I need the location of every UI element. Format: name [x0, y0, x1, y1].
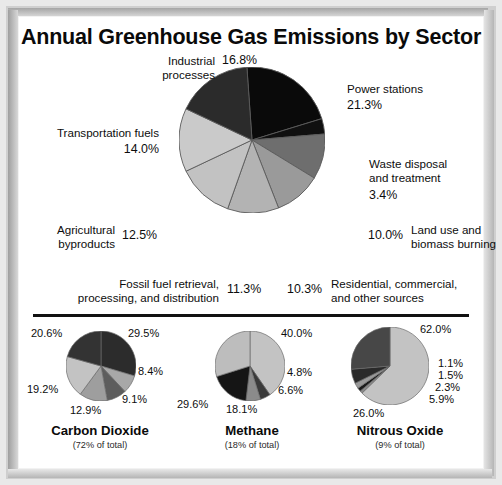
nitrous-oxide-pie-holder: 62.0% 1.1% 1.5% 2.3% 5.9% 26.0% — [325, 319, 475, 423]
co2-label-19-2: 19.2% — [27, 383, 58, 395]
nitrous-oxide-title: Nitrous Oxide — [325, 423, 475, 438]
label-agricultural: Agricultural byproducts — [19, 223, 115, 250]
label-waste-disposal-line1: Waste disposal — [369, 157, 447, 170]
co2-label-29-5: 29.5% — [128, 327, 159, 339]
carbon-dioxide-pie-holder: 29.5% 8.4% 9.1% 12.9% 19.2% 20.6% — [25, 319, 175, 423]
label-power-stations-pct: 21.3% — [347, 99, 382, 113]
page-title: Annual Greenhouse Gas Emissions by Secto… — [19, 25, 483, 50]
carbon-dioxide-title: Carbon Dioxide — [25, 423, 175, 438]
methane-pie-graphic — [215, 331, 285, 405]
n2o-label-2-3: 2.3% — [435, 381, 460, 393]
label-waste-disposal: Waste disposal and treatment — [369, 157, 447, 184]
chart-content: Annual Greenhouse Gas Emissions by Secto… — [19, 17, 483, 468]
co2-label-8-4: 8.4% — [138, 365, 163, 377]
ch4-label-6-6: 6.6% — [278, 384, 303, 396]
pie-slice — [351, 327, 390, 369]
gas-breakdown-charts: 29.5% 8.4% 9.1% 12.9% 19.2% 20.6% Carbon… — [19, 319, 483, 468]
methane-pie-holder: 40.0% 4.8% 6.6% 18.1% 29.6% — [177, 319, 327, 423]
ch4-label-18-1: 18.1% — [226, 403, 257, 415]
label-fossil-fuel-pct: 11.3% — [227, 283, 261, 297]
n2o-label-26-0: 26.0% — [353, 407, 384, 419]
label-residential-line1: Residential, commercial, — [331, 277, 457, 290]
label-residential: Residential, commercial, and other sourc… — [331, 277, 457, 304]
co2-label-9-1: 9.1% — [122, 393, 147, 405]
section-divider — [33, 314, 469, 317]
main-pie-chart: Industrial processes 16.8% Power station… — [19, 53, 483, 313]
screenshot-root: Annual Greenhouse Gas Emissions by Secto… — [0, 0, 502, 485]
label-land-use-pct: 10.0% — [368, 229, 403, 243]
methane-subtitle: (18% of total) — [177, 440, 327, 450]
n2o-label-1-1: 1.1% — [438, 357, 463, 369]
label-industrial-processes-pct: 16.8% — [222, 54, 257, 68]
chart-carbon-dioxide: 29.5% 8.4% 9.1% 12.9% 19.2% 20.6% Carbon… — [25, 319, 175, 468]
chart-nitrous-oxide: 62.0% 1.1% 1.5% 2.3% 5.9% 26.0% Nitrous … — [325, 319, 475, 468]
label-fossil-fuel-line1: Fossil fuel retrieval, — [119, 277, 219, 290]
label-land-use-line1: Land use and — [411, 223, 481, 236]
label-agricultural-pct: 12.5% — [122, 229, 157, 243]
label-agricultural-line2: byproducts — [58, 237, 115, 250]
label-transportation-fuels-pct: 14.0% — [19, 143, 159, 157]
co2-label-12-9: 12.9% — [70, 404, 101, 416]
label-residential-line2: and other sources — [331, 291, 424, 304]
n2o-label-5-9: 5.9% — [429, 393, 454, 405]
label-transportation-fuels: Transportation fuels — [19, 126, 159, 140]
label-waste-disposal-pct: 3.4% — [369, 189, 397, 203]
methane-title: Methane — [177, 423, 327, 438]
label-residential-pct: 10.3% — [287, 283, 322, 297]
label-land-use: Land use and biomass burning — [411, 223, 496, 250]
label-land-use-line2: biomass burning — [411, 237, 496, 250]
nitrous-oxide-pie-graphic — [351, 327, 429, 409]
frame-bevel-left — [8, 10, 18, 476]
n2o-label-62-0: 62.0% — [420, 323, 451, 335]
ch4-label-40-0: 40.0% — [281, 327, 312, 339]
co2-label-20-6: 20.6% — [31, 327, 62, 339]
label-waste-disposal-line2: and treatment — [369, 171, 441, 184]
carbon-dioxide-subtitle: (72% of total) — [25, 440, 175, 450]
nitrous-oxide-subtitle: (9% of total) — [325, 440, 475, 450]
n2o-label-1-5: 1.5% — [438, 369, 463, 381]
ch4-label-4-8: 4.8% — [287, 366, 312, 378]
main-pie-graphic — [179, 67, 325, 217]
label-industrial-processes-line2: processes — [162, 68, 215, 81]
label-industrial-processes-line1: Industrial — [168, 54, 215, 67]
frame-bevel-bottom — [8, 469, 492, 478]
label-agricultural-line1: Agricultural — [57, 223, 115, 236]
label-industrial-processes: Industrial processes — [95, 54, 215, 81]
label-fossil-fuel: Fossil fuel retrieval, processing, and d… — [19, 277, 219, 304]
label-fossil-fuel-line2: processing, and distribution — [78, 291, 219, 304]
ch4-label-29-6: 29.6% — [177, 398, 208, 410]
chart-methane: 40.0% 4.8% 6.6% 18.1% 29.6% Methane (18%… — [177, 319, 327, 468]
label-power-stations: Power stations — [347, 82, 423, 96]
